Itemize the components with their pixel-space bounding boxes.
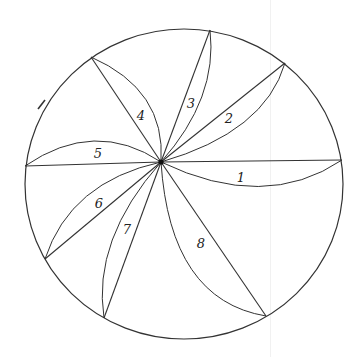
chord-5	[25, 162, 161, 166]
center-hub	[158, 159, 163, 164]
sector-label-1: 1	[237, 171, 245, 184]
sector-label-8: 8	[197, 237, 205, 250]
sector-label-3: 3	[187, 97, 195, 110]
chord-1	[161, 160, 342, 162]
outer-circle	[25, 29, 343, 339]
sector-label-7: 7	[123, 223, 131, 236]
sector-label-6: 6	[95, 197, 103, 210]
arc-1	[161, 160, 342, 187]
sector-label-2: 2	[225, 112, 233, 125]
sector-diagram	[0, 0, 361, 357]
sector-label-5: 5	[94, 147, 102, 160]
stray-pencil-mark	[38, 100, 45, 109]
sector-label-4: 4	[137, 109, 145, 122]
